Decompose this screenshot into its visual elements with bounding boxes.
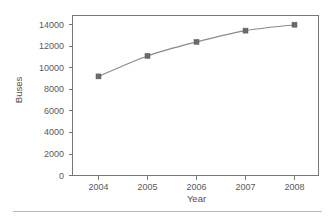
x-tick-label-2005: 2005 (137, 182, 157, 192)
data-point-2004 (96, 74, 101, 79)
y-tick-label-10000: 10000 (39, 63, 64, 73)
series-markers-buses (96, 22, 297, 79)
y-tick-label-8000: 8000 (44, 84, 64, 94)
data-point-2005 (145, 53, 150, 58)
y-tick-label-0: 0 (59, 171, 64, 181)
data-point-2006 (194, 39, 199, 44)
y-tick-label-14000: 14000 (39, 20, 64, 30)
line-chart-figure: 0 2000 4000 6000 8000 10000 12000 14000 … (0, 0, 335, 219)
x-tick-label-2008: 2008 (284, 182, 304, 192)
series-line-buses (99, 25, 295, 77)
x-axis-title: Year (187, 193, 206, 204)
x-tick-label-2004: 2004 (88, 182, 108, 192)
x-tick-label-2006: 2006 (186, 182, 206, 192)
y-axis-ticks (69, 25, 73, 176)
y-axis-title: Buses (13, 77, 24, 104)
data-point-2008 (292, 22, 297, 27)
y-tick-label-2000: 2000 (44, 149, 64, 159)
x-tick-label-2007: 2007 (235, 182, 255, 192)
x-axis-ticks (99, 176, 295, 180)
y-tick-label-6000: 6000 (44, 106, 64, 116)
y-tick-label-4000: 4000 (44, 127, 64, 137)
chart-canvas: 0 2000 4000 6000 8000 10000 12000 14000 … (0, 0, 335, 219)
y-tick-label-12000: 12000 (39, 41, 64, 51)
data-point-2007 (243, 28, 248, 33)
